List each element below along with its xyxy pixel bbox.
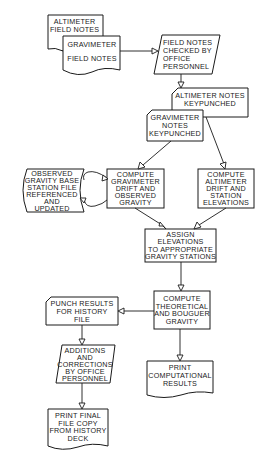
compute-gravimeter-drift-label: COMPUTE GRAVIMETER DRIFT AND OBSERVED GR… (107, 169, 164, 208)
assign-elevations-label: ASSIGN ELEVATIONS TO APPROPRIATE GRAVITY… (145, 229, 216, 262)
additions-corrections-label: ADDITIONS AND CORRECTIONS BY OFFICE PERS… (56, 345, 114, 383)
edge-basefile-to-gravdrift (84, 200, 107, 206)
print-computational-label: PRINT COMPUTATIONAL RESULTS (147, 363, 213, 389)
gravimeter-field-notes-label: GRAVIMETER FIELD NOTES (64, 39, 120, 63)
compute-altimeter-drift-label: COMPUTE ALTIMETER DRIFT AND STATION ELEV… (198, 169, 254, 208)
edge-gravkey-to-gravdrift (143, 141, 171, 165)
edge-gravdrift-to-assign (135, 208, 162, 225)
edge-altkey-to-altdrift (206, 117, 224, 164)
arrowhead-icon (152, 48, 158, 54)
gravimeter-keypunched-label: GRAVIMETER NOTES KEYPUNCHED (147, 112, 203, 139)
punch-results-label: PUNCH RESULTS FOR HISTORY FILE (46, 298, 118, 325)
arrowhead-icon (178, 82, 184, 88)
base-station-file-label: OBSERVED GRAVITY BASE STATION FILE REFER… (22, 168, 82, 213)
arrowhead-icon (138, 162, 145, 169)
edge-altdrift-to-assign (199, 208, 226, 225)
compute-theoretical-label: COMPUTE THEORETICAL AND BOUGUER GRAVITY (154, 291, 210, 329)
arrowhead-icon (220, 162, 226, 169)
flowchart-canvas (0, 0, 266, 456)
print-final-label: PRINT FINAL FILE COPY FROM HISTORY DECK (48, 411, 108, 443)
field-notes-checked-label: FIELD NOTES CHECKED BY OFFICE PERSONNEL (160, 37, 218, 72)
altimeter-field-notes-label: ALTIMETER FIELD NOTES (48, 17, 103, 35)
altimeter-keypunched-label: ALTIMETER NOTES KEYPUNCHED (172, 91, 248, 109)
arrowhead-icon (194, 222, 201, 229)
arrowhead-icon (177, 355, 183, 361)
arrowhead-icon (79, 403, 85, 409)
arrowhead-icon (159, 222, 166, 229)
arrowhead-icon (118, 308, 124, 314)
